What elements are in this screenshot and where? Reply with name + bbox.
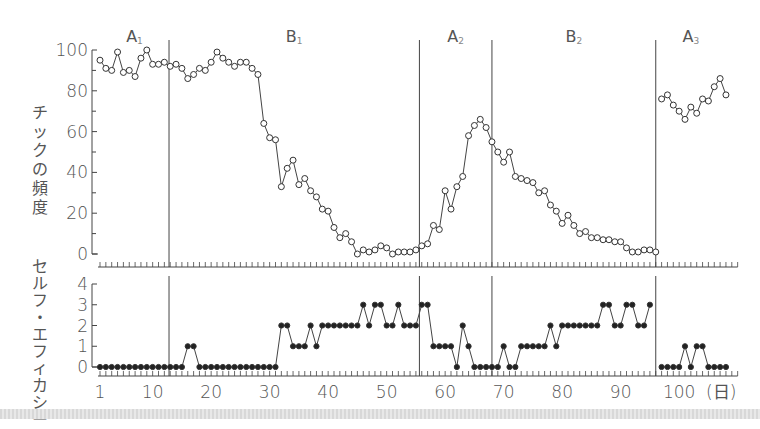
data-point	[133, 364, 138, 369]
data-point	[354, 251, 360, 257]
data-point	[167, 63, 173, 69]
x-tick-label: 1	[95, 382, 106, 402]
data-point	[284, 165, 290, 171]
data-point	[612, 323, 617, 328]
data-point	[717, 76, 723, 82]
data-point	[337, 323, 342, 328]
data-point	[220, 55, 226, 61]
data-point	[285, 323, 290, 328]
data-point	[209, 364, 214, 369]
data-point	[718, 364, 723, 369]
x-tick-label: 40	[317, 382, 339, 402]
data-point	[501, 159, 507, 165]
y-tick-label: 40	[66, 162, 88, 182]
data-point	[454, 364, 459, 369]
phase-label: A3	[683, 27, 700, 46]
data-point	[624, 245, 630, 251]
chart-svg: 020406080100A1B1A2B2A3 01234110203040506…	[0, 0, 760, 429]
data-point	[507, 364, 512, 369]
phase-label: A1	[126, 27, 143, 46]
data-point	[238, 364, 243, 369]
data-point	[641, 247, 647, 253]
data-point	[168, 364, 173, 369]
data-point	[448, 206, 454, 212]
data-point	[419, 302, 424, 307]
y-axis-labels: チックの頻度セルフ・エフィカシー	[32, 103, 48, 429]
data-point	[489, 364, 494, 369]
y-tick-label: 80	[66, 81, 88, 101]
data-point	[577, 231, 583, 237]
data-point	[565, 323, 570, 328]
data-point	[360, 247, 366, 253]
y-tick-label: 4	[77, 274, 88, 294]
data-point	[349, 239, 355, 245]
data-point	[115, 49, 121, 55]
data-point	[571, 323, 576, 328]
data-point	[618, 323, 623, 328]
data-point	[331, 323, 336, 328]
data-point	[484, 364, 489, 369]
data-point	[600, 237, 606, 243]
data-point	[548, 323, 553, 328]
data-point	[308, 188, 314, 194]
data-point	[103, 364, 108, 369]
bottom-border-strip	[0, 409, 760, 419]
data-point	[249, 65, 255, 71]
data-point	[196, 65, 202, 71]
data-point	[460, 173, 466, 179]
data-point	[413, 247, 419, 253]
data-point	[273, 364, 278, 369]
data-point	[641, 323, 646, 328]
data-point	[273, 137, 279, 143]
data-point	[325, 208, 331, 214]
data-point	[185, 344, 190, 349]
data-point	[319, 206, 325, 212]
data-point	[378, 243, 384, 249]
data-point	[267, 364, 272, 369]
data-point	[653, 249, 659, 255]
data-point	[501, 344, 506, 349]
top-ylabel-char: ッ	[32, 122, 48, 141]
data-point	[483, 125, 489, 131]
data-point	[466, 344, 471, 349]
data-point	[443, 344, 448, 349]
data-point	[296, 344, 301, 349]
data-point	[601, 302, 606, 307]
data-point	[278, 184, 284, 190]
top-ylabel-char: 頻	[32, 179, 48, 198]
data-point	[255, 71, 261, 77]
data-point	[448, 344, 453, 349]
tic-frequency-panel: 020406080100A1B1A2B2A3	[56, 27, 738, 267]
x-tick-label: 20	[200, 382, 222, 402]
data-point	[442, 188, 448, 194]
data-point	[425, 302, 430, 307]
data-point	[723, 364, 728, 369]
data-point	[606, 237, 612, 243]
top-ylabel-char: チ	[32, 103, 48, 122]
data-point	[109, 67, 115, 73]
data-point	[694, 110, 700, 116]
data-point	[243, 59, 249, 65]
data-point	[630, 302, 635, 307]
data-point	[542, 344, 547, 349]
data-point	[120, 69, 126, 75]
data-point	[659, 364, 664, 369]
data-point	[466, 133, 472, 139]
data-point	[629, 249, 635, 255]
x-tick-label: 100	[663, 382, 695, 402]
top-ylabel-char: ク	[32, 141, 48, 160]
data-point	[407, 323, 412, 328]
data-point	[606, 302, 611, 307]
y-tick-label: 100	[56, 40, 88, 60]
data-point	[226, 364, 231, 369]
data-point	[173, 61, 179, 67]
data-point	[202, 67, 208, 73]
data-point	[471, 122, 477, 128]
x-tick-label: 60	[434, 382, 456, 402]
data-point	[425, 241, 431, 247]
data-point	[179, 364, 184, 369]
data-point	[244, 364, 249, 369]
data-point	[220, 364, 225, 369]
data-point	[705, 98, 711, 104]
data-point	[477, 116, 483, 122]
